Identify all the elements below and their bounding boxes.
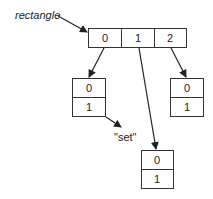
left-cell-1-value: 1 [86,101,92,113]
right-cell-1-value: 1 [184,101,190,113]
set-annotation: "set" [114,131,137,143]
left-sub-array: 0 1 [73,79,106,117]
pointer-arrow-1 [139,48,156,149]
pointer-arrow-2 [171,48,186,77]
bottom-sub-array: 0 1 [142,151,174,189]
top-cell-0-value: 0 [102,32,108,44]
ragged-array-diagram: rectangle 0 1 2 0 1 0 1 0 1 "set" [0,0,213,199]
left-cell-0-value: 0 [86,82,92,94]
label-arrow [58,16,87,32]
svg-text:rectangle: rectangle [15,9,60,21]
set-arrow [106,117,121,127]
top-array: 0 1 2 [89,29,187,48]
bottom-cell-0-value: 0 [154,154,160,166]
top-cell-2-value: 2 [167,32,173,44]
right-sub-array: 0 1 [171,79,204,117]
pointer-arrow-0 [89,48,104,77]
rectangle-label: rectangle [15,9,60,21]
top-cell-1-value: 1 [135,32,141,44]
right-cell-0-value: 0 [184,82,190,94]
bottom-cell-1-value: 1 [154,173,160,185]
